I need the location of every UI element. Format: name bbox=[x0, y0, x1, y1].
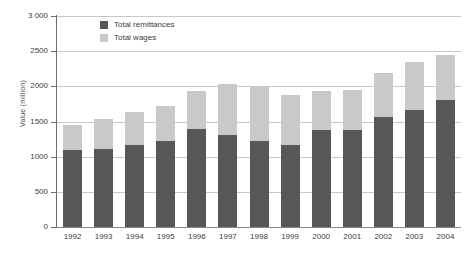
bar-1999 bbox=[281, 95, 300, 227]
bar-segment-total-wages bbox=[436, 55, 455, 100]
bar-1995 bbox=[156, 106, 175, 227]
bar-segment-total-wages bbox=[156, 106, 175, 140]
legend-item: Total remittances bbox=[100, 18, 174, 31]
bar-segment-total-remittances bbox=[187, 129, 206, 227]
y-tick-label: 1500 bbox=[8, 117, 48, 126]
gridline-2500 bbox=[57, 51, 461, 52]
bar-segment-total-wages bbox=[343, 90, 362, 130]
legend-swatch-icon bbox=[100, 34, 108, 42]
bar-segment-total-remittances bbox=[250, 141, 269, 227]
gridline-3000 bbox=[57, 16, 461, 17]
bar-segment-total-wages bbox=[187, 91, 206, 130]
bar-segment-total-remittances bbox=[312, 130, 331, 227]
bar-segment-total-wages bbox=[218, 84, 237, 135]
bar-segment-total-remittances bbox=[405, 110, 424, 227]
bar-chart: Value (million) 050010001500200025003 00… bbox=[0, 0, 475, 253]
legend-item: Total wages bbox=[100, 31, 174, 44]
y-tick-label: 2000 bbox=[8, 81, 48, 90]
bar-segment-total-wages bbox=[312, 91, 331, 130]
bar-1996 bbox=[187, 91, 206, 227]
bar-segment-total-remittances bbox=[125, 145, 144, 227]
bar-segment-total-wages bbox=[63, 125, 82, 150]
bar-segment-total-remittances bbox=[156, 141, 175, 228]
y-tick-label: 2500 bbox=[8, 46, 48, 55]
bar-1997 bbox=[218, 84, 237, 227]
bar-1993 bbox=[94, 119, 113, 227]
bar-segment-total-wages bbox=[94, 119, 113, 149]
bar-segment-total-remittances bbox=[218, 135, 237, 227]
bar-segment-total-remittances bbox=[281, 145, 300, 227]
y-tick-label: 0 bbox=[8, 222, 48, 231]
gridline-0 bbox=[57, 227, 461, 228]
bar-2002 bbox=[374, 73, 393, 227]
bar-2001 bbox=[343, 90, 362, 227]
bar-segment-total-remittances bbox=[343, 130, 362, 227]
bar-segment-total-wages bbox=[405, 62, 424, 110]
plot-area bbox=[57, 16, 461, 227]
bar-2000 bbox=[312, 91, 331, 227]
bar-1992 bbox=[63, 125, 82, 227]
bar-2004 bbox=[436, 55, 455, 227]
y-tick-label: 500 bbox=[8, 187, 48, 196]
bar-segment-total-remittances bbox=[436, 100, 455, 227]
x-axis-label-2004: 2004 bbox=[425, 232, 465, 241]
bar-segment-total-wages bbox=[250, 86, 269, 141]
bar-segment-total-wages bbox=[374, 73, 393, 117]
legend-swatch-icon bbox=[100, 21, 108, 29]
y-tick-label: 3 000 bbox=[8, 11, 48, 20]
bar-1994 bbox=[125, 112, 144, 227]
legend-label: Total wages bbox=[114, 34, 156, 42]
bar-segment-total-remittances bbox=[63, 150, 82, 227]
y-tick-label: 1000 bbox=[8, 152, 48, 161]
bar-1998 bbox=[250, 86, 269, 227]
bar-2003 bbox=[405, 62, 424, 227]
bar-segment-total-remittances bbox=[374, 117, 393, 227]
y-axis-title: Value (million) bbox=[19, 64, 26, 144]
bar-segment-total-wages bbox=[281, 95, 300, 145]
chart-legend: Total remittancesTotal wages bbox=[100, 18, 174, 44]
bar-segment-total-wages bbox=[125, 112, 144, 145]
bar-segment-total-remittances bbox=[94, 149, 113, 227]
legend-label: Total remittances bbox=[114, 21, 174, 29]
